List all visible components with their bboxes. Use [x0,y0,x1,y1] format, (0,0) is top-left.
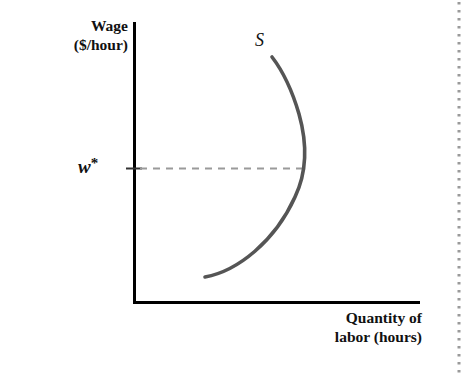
x-axis-label-line-2: labor (hours) [240,328,422,347]
y-axis-label-line-1: Wage [0,17,128,36]
supply-curve-label: S [255,30,264,51]
x-axis-label-line-1: Quantity of [240,309,422,328]
x-axis-label: Quantity of labor (hours) [240,309,422,347]
supply-curve [205,57,305,277]
equilibrium-wage-star: * [91,155,99,171]
equilibrium-wage-label: w* [78,155,98,178]
equilibrium-wage-symbol: w [78,156,91,177]
labor-supply-figure: Wage ($/hour) Quantity of labor (hours) … [0,0,470,379]
y-axis-label: Wage ($/hour) [0,17,128,55]
y-axis-label-line-2: ($/hour) [0,36,128,55]
